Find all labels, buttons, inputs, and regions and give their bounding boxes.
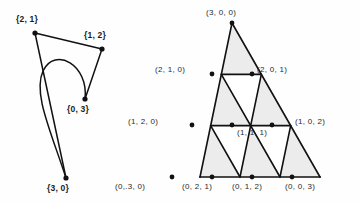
lattice-label-102: (1, 0, 2): [295, 117, 325, 126]
left-vertex-label-1-2: {1, 2}: [84, 30, 106, 40]
left-vertex-label-2-1: {2, 1}: [16, 14, 38, 24]
lattice-label-201: (2, 0, 1): [257, 65, 287, 74]
left-vertex-dot-30: [63, 175, 68, 180]
left-diagram-graphics: [0, 0, 360, 202]
left-vertex-dot-03: [82, 96, 87, 101]
lattice-dot-003: [290, 175, 295, 180]
lattice-label-120: (1, 2, 0): [128, 117, 158, 126]
left-edge-21-30: [35, 33, 66, 178]
figure-canvas: {2, 1} {1, 2} {0, 3} {3, 0} (3, 0, 0) (2…: [0, 0, 360, 202]
left-vertex-dot-12: [99, 46, 104, 51]
left-vertex-dot-21: [32, 30, 37, 35]
lattice-dot-012: [250, 175, 255, 180]
lattice-dot-021: [210, 175, 215, 180]
lattice-dot-102: [270, 123, 275, 128]
left-vertex-label-0-3: {0, 3}: [67, 104, 89, 114]
left-edge-12-03: [85, 49, 102, 99]
lattice-label-111: (1, 1, 1): [237, 128, 267, 137]
lattice-label-012: (0, 1, 2): [232, 182, 262, 191]
lattice-dot-111: [230, 123, 235, 128]
lattice-label-021: (0, 2, 1): [182, 182, 212, 191]
lattice-label-030: (0,.3, 0): [115, 182, 145, 191]
lattice-label-003: (0, 0, 3): [285, 182, 315, 191]
lattice-label-300: (3, 0, 0): [206, 8, 236, 17]
lattice-dot-120: [190, 123, 195, 128]
lattice-dot-300: [230, 21, 235, 26]
triangle-fills-group: [200, 23, 320, 177]
lattice-dot-210: [210, 72, 215, 77]
lattice-dot-201: [250, 72, 255, 77]
lattice-dot-030: [170, 175, 175, 180]
lattice-label-210: (2, 1, 0): [155, 65, 185, 74]
left-vertex-label-3-0: {3, 0}: [47, 183, 69, 193]
